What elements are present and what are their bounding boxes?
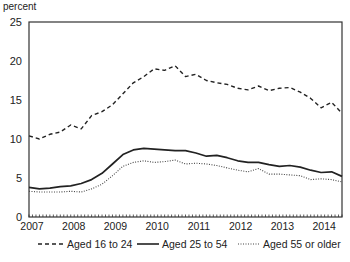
- x-tick-label: 2012: [229, 220, 253, 232]
- y-tick-label: 5: [16, 172, 22, 184]
- legend-label: Aged 55 or older: [263, 238, 341, 250]
- y-tick-label: 20: [10, 55, 22, 67]
- x-tick-label: 2014: [312, 220, 336, 232]
- series-line-solid: [29, 148, 342, 189]
- legend-item-55-older: Aged 55 or older: [238, 238, 341, 250]
- dashed-line-swatch-icon: [38, 240, 64, 248]
- x-tick-label: 2008: [62, 220, 86, 232]
- y-tick-label: 10: [10, 133, 22, 145]
- legend-item-16-24: Aged 16 to 24: [38, 238, 132, 250]
- legend-label: Aged 25 to 54: [162, 238, 227, 250]
- legend: Aged 16 to 24 Aged 25 to 54 Aged 55 or o…: [0, 238, 350, 256]
- y-tick-label: 15: [10, 94, 22, 106]
- series-line-dashed: [29, 66, 342, 139]
- plot-frame: [29, 22, 342, 217]
- legend-item-25-54: Aged 25 to 54: [137, 238, 227, 250]
- solid-line-swatch-icon: [137, 240, 159, 248]
- series-line-dotted: [29, 160, 342, 192]
- x-tick-label: 2013: [271, 220, 295, 232]
- y-tick-label: 25: [10, 16, 22, 28]
- x-tick-label: 2009: [104, 220, 128, 232]
- dotted-line-swatch-icon: [238, 240, 260, 248]
- legend-label: Aged 16 to 24: [67, 238, 132, 250]
- x-tick-label: 2007: [20, 220, 44, 232]
- x-tick-label: 2010: [146, 220, 170, 232]
- line-chart: 0510152025200720082009201020112012201320…: [0, 0, 350, 236]
- x-tick-label: 2011: [188, 220, 211, 232]
